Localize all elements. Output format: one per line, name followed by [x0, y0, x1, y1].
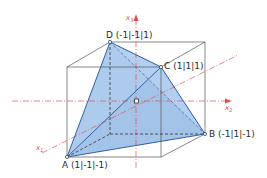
point-label-a: A (1|-1|-1) — [62, 161, 108, 170]
x1-axis-label: x1 — [36, 145, 43, 153]
vertex-a — [65, 155, 68, 158]
point-label-c: C (1|1|1) — [164, 62, 203, 71]
vertex-d — [108, 40, 111, 43]
diagram: x1 x2 x3 A (1|-1|-1) B (-1|1|-1) C (1|1|… — [0, 0, 267, 178]
point-label-b: B (-1|1|-1) — [209, 130, 255, 139]
x3-arrowhead — [134, 14, 139, 21]
vertex-b — [203, 132, 206, 135]
point-label-d: D (-1|-1|1) — [106, 31, 153, 40]
vertex-c — [159, 65, 162, 68]
x2-arrowhead — [225, 99, 232, 104]
x3-axis-label: x3 — [126, 15, 133, 23]
center-point — [135, 99, 139, 103]
x2-axis-label: x2 — [225, 105, 232, 113]
